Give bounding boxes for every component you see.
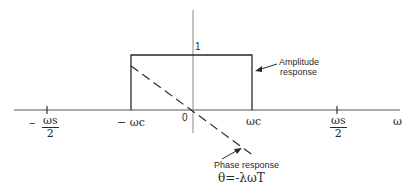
x-axis-label: ω — [393, 115, 402, 128]
amplitude-response-curve — [131, 55, 252, 110]
neg-ws-half-label: ωs 2 — [42, 115, 59, 140]
phase-arrow-head — [234, 148, 242, 154]
amplitude-level-label: 1 — [195, 41, 201, 52]
amplitude-annotation-line1: Amplitude — [279, 57, 319, 67]
amplitude-arrow-head — [255, 66, 262, 72]
wc-label: ωc — [246, 115, 261, 128]
pos-ws-half-denominator: 2 — [335, 128, 342, 140]
pos-ws-half-label: ωs 2 — [330, 115, 347, 140]
neg-ws-half-sign: − — [29, 117, 35, 129]
neg-wc-label: − ωc — [117, 116, 145, 129]
phase-annotation-line1: Phase response — [214, 160, 279, 170]
filter-response-diagram: 1 0 − ωs 2 − ωc ωc ωs 2 ω Amplitude resp… — [0, 0, 415, 195]
origin-label: 0 — [182, 112, 188, 123]
phase-formula: θ=-λωT — [218, 171, 265, 185]
neg-ws-half-denominator: 2 — [47, 128, 54, 140]
diagram-graphics — [0, 0, 415, 195]
amplitude-annotation-line2: response — [280, 67, 317, 77]
